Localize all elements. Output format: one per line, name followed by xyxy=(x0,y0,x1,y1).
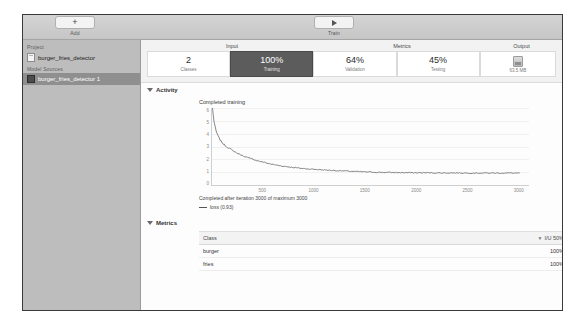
summary-cards: 2 Classes 100% Training 64% Validation 4… xyxy=(147,51,556,77)
loss-plot: 6543210 50010001500200025003000 xyxy=(199,108,529,186)
sidebar-item-model-source[interactable]: burger_fries_detector 1 xyxy=(23,73,140,85)
model-icon xyxy=(27,75,35,83)
metrics-table-wrap: Class ▼I/U 50% Varied I/U burger 100% xyxy=(199,231,562,271)
column-iu50[interactable]: ▼I/U 50% xyxy=(512,232,562,245)
card-classes-value: 2 xyxy=(186,56,191,65)
card-training-label: Training xyxy=(264,67,280,72)
sidebar-project-header: Project xyxy=(23,42,140,51)
sidebar-model-source-label: burger_fries_detector 1 xyxy=(38,76,100,82)
add-button-label: Add xyxy=(55,30,95,36)
y-tick-label: 1 xyxy=(206,169,209,174)
activity-section: Activity Completed training 6543210 5001… xyxy=(141,83,562,210)
train-button[interactable] xyxy=(314,16,354,29)
x-tick-label: 2500 xyxy=(462,188,472,193)
metrics-title: Metrics xyxy=(156,220,177,226)
table-row[interactable]: fries 100% 86% xyxy=(199,258,562,271)
x-tick-label: 500 xyxy=(259,188,267,193)
cell-iu50: 100% xyxy=(512,245,562,258)
summary-strip: Input Metrics Output 2 Classes 100% Trai… xyxy=(141,40,562,83)
sidebar-model-sources-header: Model Sources xyxy=(23,64,140,73)
card-validation-label: Validation xyxy=(345,67,364,72)
metrics-section: Metrics Class ▼I/U 50% Varied I/U xyxy=(141,216,562,271)
summary-group-output: Output xyxy=(487,43,556,49)
y-tick-label: 2 xyxy=(206,157,209,162)
metrics-table-body: burger 100% 84% fries 100% 86% xyxy=(199,245,562,271)
metrics-header[interactable]: Metrics xyxy=(147,220,562,226)
loss-series xyxy=(213,108,520,174)
card-classes-label: Classes xyxy=(181,67,197,72)
document-icon xyxy=(27,53,35,62)
x-tick-label: 2000 xyxy=(411,188,421,193)
window-body: Project burger_fries_detector Model Sour… xyxy=(23,40,562,310)
legend-label: loss (0.93) xyxy=(210,204,233,210)
card-training-value: 100% xyxy=(260,56,283,65)
card-testing: 45% Testing xyxy=(397,51,480,77)
sidebar: Project burger_fries_detector Model Sour… xyxy=(23,40,141,310)
card-testing-value: 45% xyxy=(429,56,447,65)
model-file-icon xyxy=(513,56,523,67)
sort-arrow-icon: ▼ xyxy=(537,235,542,241)
card-validation-value: 64% xyxy=(346,56,364,65)
card-classes: 2 Classes xyxy=(147,51,230,77)
activity-title: Activity xyxy=(156,87,178,93)
cell-class: burger xyxy=(199,245,512,258)
summary-group-input: Input xyxy=(147,43,317,49)
y-axis-ticks: 6543210 xyxy=(199,108,209,186)
chart-title: Completed training xyxy=(199,99,562,105)
card-training: 100% Training xyxy=(230,51,313,77)
cell-class: fries xyxy=(199,258,512,271)
plus-icon: + xyxy=(72,18,77,27)
app-window: + Add Train Project burger_fries_detecto… xyxy=(22,14,563,311)
sidebar-item-project[interactable]: burger_fries_detector xyxy=(23,51,140,64)
summary-group-labels: Input Metrics Output xyxy=(147,43,556,49)
column-class[interactable]: Class xyxy=(199,232,512,245)
x-tick-label: 3000 xyxy=(514,188,524,193)
legend-swatch xyxy=(199,207,207,208)
table-row[interactable]: burger 100% 84% xyxy=(199,245,562,258)
y-tick-label: 4 xyxy=(206,132,209,137)
chevron-down-icon[interactable] xyxy=(147,221,153,225)
x-tick-label: 1500 xyxy=(360,188,370,193)
card-output-label: 63.5 MB xyxy=(509,68,526,73)
sidebar-project-label: burger_fries_detector xyxy=(38,55,95,61)
chart-legend: loss (0.93) xyxy=(199,204,562,210)
plot-area xyxy=(211,108,529,186)
x-axis-ticks: 50010001500200025003000 xyxy=(211,188,529,196)
chevron-down-icon[interactable] xyxy=(147,88,153,92)
toolbar: + Add Train xyxy=(23,15,562,40)
metrics-table-head: Class ▼I/U 50% Varied I/U xyxy=(199,232,562,245)
y-tick-label: 6 xyxy=(206,108,209,113)
train-button-group[interactable]: Train xyxy=(314,15,354,36)
loss-line xyxy=(212,108,530,185)
train-button-label: Train xyxy=(314,30,354,36)
x-tick-label: 1000 xyxy=(309,188,319,193)
add-button[interactable]: + xyxy=(55,16,95,29)
content-pane: Input Metrics Output 2 Classes 100% Trai… xyxy=(141,40,562,310)
training-chart: Completed training 6543210 5001000150020… xyxy=(147,93,562,210)
y-tick-label: 3 xyxy=(206,144,209,149)
play-icon xyxy=(332,20,337,26)
table-header-row: Class ▼I/U 50% Varied I/U xyxy=(199,232,562,245)
y-tick-label: 0 xyxy=(206,181,209,186)
metrics-table: Class ▼I/U 50% Varied I/U burger 100% xyxy=(199,231,562,271)
column-iu50-label: I/U 50% xyxy=(544,235,562,241)
card-testing-label: Testing xyxy=(431,67,445,72)
cell-iu50: 100% xyxy=(512,258,562,271)
card-output[interactable]: 63.5 MB xyxy=(480,51,556,77)
y-tick-label: 5 xyxy=(206,120,209,125)
card-validation: 64% Validation xyxy=(313,51,396,77)
add-button-group[interactable]: + Add xyxy=(55,15,95,36)
summary-group-metrics: Metrics xyxy=(317,43,487,49)
